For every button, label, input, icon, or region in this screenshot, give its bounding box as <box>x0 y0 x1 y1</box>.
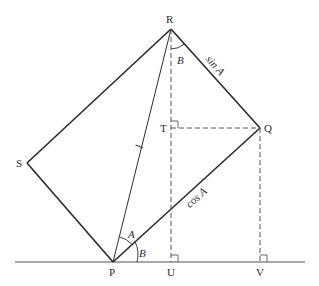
angle-arc-P-B <box>135 242 138 262</box>
right-angle-T <box>171 121 178 128</box>
angle-arc-R-B <box>171 44 184 49</box>
label-U: U <box>167 266 175 278</box>
label-P: P <box>109 266 115 278</box>
edge-PS <box>27 163 113 262</box>
diagonal-PR <box>113 29 171 262</box>
edge-SR <box>27 29 171 163</box>
label-angle-B-R: B <box>177 54 184 66</box>
label-V: V <box>256 266 264 278</box>
label-S: S <box>16 157 22 169</box>
label-cos-A: cos A <box>183 185 209 210</box>
right-angle-U <box>171 255 178 262</box>
label-R: R <box>166 13 174 25</box>
label-Q: Q <box>264 122 272 134</box>
label-angle-A: A <box>127 228 135 240</box>
label-sin-A: sin A <box>204 53 228 78</box>
label-angle-B-P: B <box>139 247 146 259</box>
label-T: T <box>160 122 167 134</box>
label-hypotenuse: l <box>133 144 145 150</box>
trig-rectangle-diagram: R Q S T P U V l sin A cos A A B B <box>0 0 319 286</box>
right-angle-V <box>260 255 267 262</box>
